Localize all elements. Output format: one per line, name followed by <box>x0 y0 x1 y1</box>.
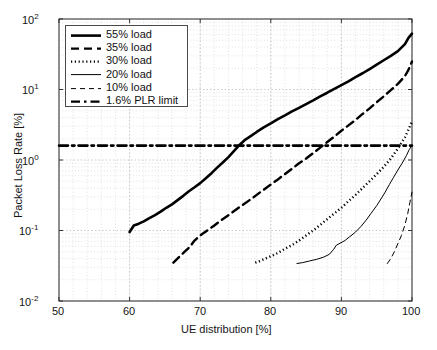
y-tick-label-100: 102 <box>22 13 39 26</box>
legend-item: 1.6% PLR limit <box>65 94 188 107</box>
y-tick-exponent: -2 <box>31 294 38 303</box>
legend-line-sample <box>70 41 102 54</box>
legend-line-sample <box>70 81 102 94</box>
x-tick-label-70: 70 <box>194 306 206 317</box>
x-axis-title: UE distribution [%] <box>181 324 271 335</box>
legend-line-sample <box>70 28 102 41</box>
series-line-20-load <box>297 146 412 264</box>
y-tick-label-10: 101 <box>22 83 39 96</box>
y-tick-mantissa: 10 <box>19 296 31 308</box>
y-tick-label-1: 100 <box>22 154 39 167</box>
series-line-35-load <box>173 61 412 262</box>
chart-figure: 102 101 100 10-1 10-2 50 60 70 80 90 100… <box>0 0 437 350</box>
y-tick-label-0.01: 10-2 <box>19 295 38 308</box>
legend-item-label: 10% load <box>106 82 152 93</box>
legend-line-sample <box>70 68 102 81</box>
y-tick-exponent: 0 <box>34 153 38 162</box>
legend-item: 30% load <box>65 54 188 67</box>
y-tick-mantissa: 10 <box>19 225 31 237</box>
legend-item-label: 1.6% PLR limit <box>106 95 178 106</box>
x-tick-label-80: 80 <box>264 306 276 317</box>
x-tick-label-60: 60 <box>123 306 135 317</box>
legend-item: 55% load <box>65 28 188 41</box>
legend-item: 10% load <box>65 81 188 94</box>
legend-item-label: 35% load <box>106 42 152 53</box>
series-line-10-load <box>387 192 412 263</box>
y-tick-label-0.1: 10-1 <box>19 224 38 237</box>
legend-line-sample <box>70 54 102 67</box>
y-tick-mantissa: 10 <box>22 14 34 26</box>
y-tick-exponent: -1 <box>31 223 38 232</box>
x-tick-label-50: 50 <box>52 306 64 317</box>
legend-item-label: 55% load <box>106 29 152 40</box>
legend-item-label: 20% load <box>106 69 152 80</box>
y-tick-mantissa: 10 <box>22 84 34 96</box>
y-tick-exponent: 2 <box>34 12 38 21</box>
legend-item: 35% load <box>65 41 188 54</box>
y-tick-exponent: 1 <box>34 82 38 91</box>
x-tick-label-90: 90 <box>335 306 347 317</box>
y-axis-title: Packet Loss Rate [%] <box>13 113 24 218</box>
legend-line-sample <box>70 94 102 107</box>
x-tick-label-100: 100 <box>402 306 420 317</box>
series-line-30-load <box>255 122 412 263</box>
legend-item-label: 30% load <box>106 55 152 66</box>
legend-item: 20% load <box>65 68 188 81</box>
